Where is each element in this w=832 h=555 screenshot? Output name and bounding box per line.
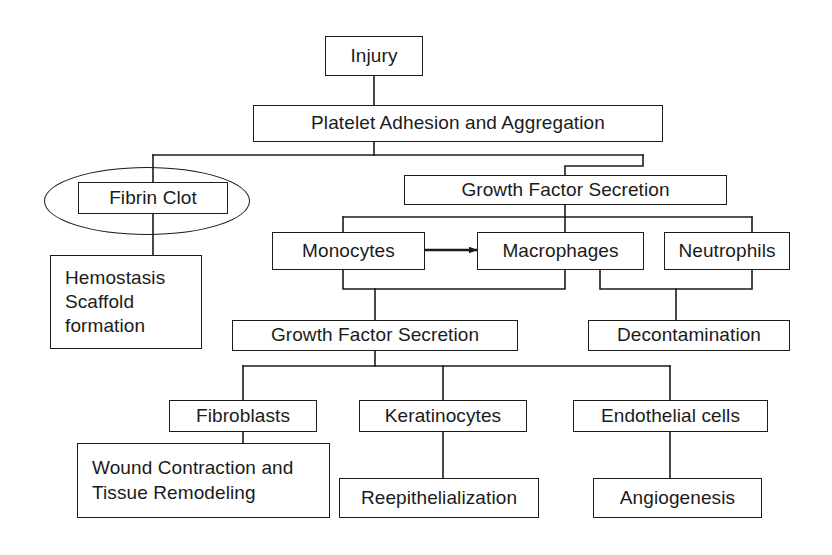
node-reepithelialization[interactable]: Reepithelialization: [339, 478, 539, 518]
node-endothelial-cells[interactable]: Endothelial cells: [573, 400, 768, 432]
edge-platelet-to-gfs1: [565, 155, 643, 175]
node-platelet-adhesion[interactable]: Platelet Adhesion and Aggregation: [253, 105, 663, 142]
node-injury[interactable]: Injury: [325, 36, 423, 76]
flowchart-canvas: Injury Platelet Adhesion and Aggregation…: [0, 0, 832, 555]
node-neutrophils[interactable]: Neutrophils: [664, 232, 790, 270]
node-angiogenesis[interactable]: Angiogenesis: [593, 478, 762, 518]
edge-cells-to-decon-bus: [600, 270, 752, 289]
node-hemostasis-scaffold[interactable]: Hemostasis Scaffold formation: [50, 255, 202, 349]
node-decontamination[interactable]: Decontamination: [588, 320, 790, 351]
edge-cells-to-gfs2-bus: [343, 270, 565, 289]
node-monocytes[interactable]: Monocytes: [272, 232, 425, 270]
node-wound-contraction[interactable]: Wound Contraction and Tissue Remodeling: [77, 443, 330, 518]
node-keratinocytes[interactable]: Keratinocytes: [359, 400, 527, 432]
node-fibrin-clot[interactable]: Fibrin Clot: [78, 182, 228, 214]
node-macrophages[interactable]: Macrophages: [477, 232, 644, 270]
node-growth-factor-secretion-1[interactable]: Growth Factor Secretion: [404, 175, 727, 205]
node-fibroblasts[interactable]: Fibroblasts: [169, 400, 317, 432]
node-growth-factor-secretion-2[interactable]: Growth Factor Secretion: [232, 320, 518, 351]
